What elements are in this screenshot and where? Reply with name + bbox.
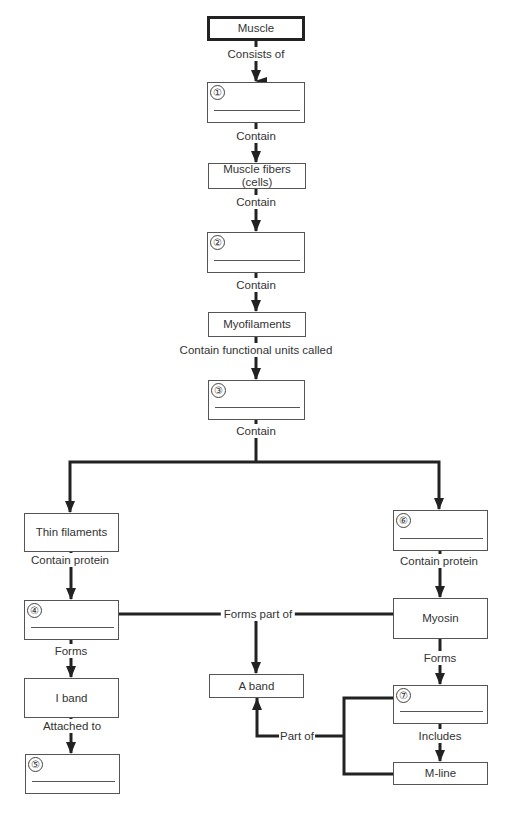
answer-line xyxy=(31,627,114,628)
node-myosin: Myosin xyxy=(393,598,488,639)
node-blank-2[interactable]: ② xyxy=(207,232,305,273)
answer-line xyxy=(400,538,483,539)
node-label: A band xyxy=(239,680,275,693)
node-label: Myosin xyxy=(422,612,458,625)
node-label: Muscle xyxy=(238,22,274,35)
number-badge: ③ xyxy=(211,383,226,398)
number-badge: ④ xyxy=(27,603,42,618)
node-blank-4[interactable]: ④ xyxy=(24,600,119,640)
edge-label-forms: Forms xyxy=(423,651,458,665)
node-thin-filaments: Thin filaments xyxy=(24,513,119,552)
node-label: Myofilaments xyxy=(223,318,291,331)
node-blank-1[interactable]: ① xyxy=(207,82,305,123)
answer-line xyxy=(400,711,483,712)
node-label-line1: Muscle fibers xyxy=(223,163,291,176)
node-m-line: M-line xyxy=(393,762,488,785)
edge-label-forms: Forms xyxy=(54,644,89,658)
edge-label-includes: Includes xyxy=(418,729,463,743)
node-blank-3[interactable]: ③ xyxy=(208,380,305,420)
concept-map: Muscle ① Muscle fibers (cells) ② Myofila… xyxy=(0,0,514,830)
edge-label-consists-of: Consists of xyxy=(227,47,286,61)
edge-label-contain: Contain xyxy=(235,129,277,143)
node-label-line2: (cells) xyxy=(242,176,273,189)
answer-line xyxy=(214,260,300,261)
node-label: M-line xyxy=(425,767,456,780)
node-blank-7[interactable]: ⑦ xyxy=(393,685,488,724)
edge-label-contain: Contain xyxy=(235,278,277,292)
answer-line xyxy=(32,781,115,782)
node-muscle: Muscle xyxy=(207,16,305,41)
edge-label-contain-functional-units: Contain functional units called xyxy=(179,343,334,357)
edge-label-attached-to: Attached to xyxy=(42,719,102,733)
node-i-band: I band xyxy=(24,678,119,718)
edge-label-contain-protein: Contain protein xyxy=(30,553,110,567)
edge-label-contain-protein: Contain protein xyxy=(399,554,479,568)
edge-label-part-of: Part of xyxy=(279,729,315,743)
node-label: Thin filaments xyxy=(36,526,108,539)
answer-line xyxy=(215,407,300,408)
answer-line xyxy=(214,110,300,111)
edge-label-contain: Contain xyxy=(235,195,277,209)
edge-label-contain: Contain xyxy=(235,424,277,438)
number-badge: ⑥ xyxy=(396,513,411,528)
node-blank-5[interactable]: ⑤ xyxy=(25,754,120,794)
number-badge: ① xyxy=(210,85,225,100)
number-badge: ② xyxy=(210,235,225,250)
number-badge: ⑤ xyxy=(28,757,43,772)
edge-label-forms-part-of: Forms part of xyxy=(221,607,295,621)
node-blank-6[interactable]: ⑥ xyxy=(393,510,488,551)
node-myofilaments: Myofilaments xyxy=(208,312,306,337)
number-badge: ⑦ xyxy=(396,688,411,703)
node-label: I band xyxy=(56,692,88,705)
node-muscle-fibers: Muscle fibers (cells) xyxy=(208,163,306,189)
node-a-band: A band xyxy=(209,674,304,698)
